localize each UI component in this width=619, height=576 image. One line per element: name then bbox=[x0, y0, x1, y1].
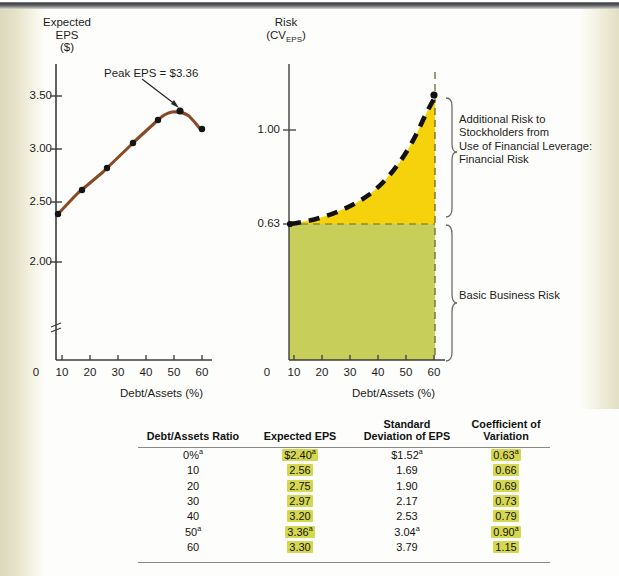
cell-debt-assets-value: 30 bbox=[187, 495, 199, 507]
figure-page: Expected EPS ($) Peak EPS = $3.36 3.50 3… bbox=[0, 0, 619, 576]
cell-standard-deviation: 3.04a bbox=[352, 525, 462, 540]
cell-standard-deviation: 1.90 bbox=[352, 479, 462, 494]
cell-standard-deviation-value: 3.79 bbox=[396, 541, 417, 553]
eps-point-60 bbox=[199, 126, 205, 132]
table-row: 102.561.690.66 bbox=[138, 463, 550, 478]
header-standard-deviation: Standard Deviation of EPS bbox=[352, 418, 462, 447]
header-sd-line1: Standard bbox=[352, 418, 462, 430]
header-sd-line2: Deviation of EPS bbox=[352, 430, 462, 442]
cell-debt-assets-value: 50a bbox=[185, 526, 201, 538]
cell-expected-eps: 3.36a bbox=[248, 525, 352, 540]
header-cv-line2: Variation bbox=[462, 430, 550, 442]
cell-expected-eps-value: $2.40a bbox=[282, 449, 318, 461]
cell-expected-eps: 3.30 bbox=[248, 540, 352, 557]
cell-debt-assets: 60 bbox=[138, 540, 248, 557]
footnote-marker: a bbox=[515, 524, 519, 533]
cell-expected-eps-value: 2.97 bbox=[287, 495, 312, 507]
cell-standard-deviation: 1.69 bbox=[352, 463, 462, 478]
cell-standard-deviation: 2.17 bbox=[352, 494, 462, 509]
cell-debt-assets-value: 10 bbox=[187, 464, 199, 476]
cell-coefficient-of-variation-value: 0.73 bbox=[493, 495, 518, 507]
cell-standard-deviation-value: 1.69 bbox=[396, 464, 417, 476]
page-top-edge-band bbox=[0, 0, 619, 9]
cell-debt-assets-value: 0%a bbox=[183, 449, 203, 461]
basic-business-risk-area bbox=[289, 224, 435, 360]
header-expected-eps: Expected EPS bbox=[248, 418, 352, 447]
header-coefficient-of-variation: Coefficient of Variation bbox=[462, 418, 550, 447]
cell-coefficient-of-variation: 0.66 bbox=[462, 463, 550, 478]
cell-expected-eps-value: 2.56 bbox=[287, 464, 312, 476]
eps-point-0 bbox=[55, 211, 61, 217]
cell-coefficient-of-variation: 1.15 bbox=[462, 540, 550, 557]
table-bottom-rule bbox=[138, 562, 550, 563]
cell-debt-assets: 10 bbox=[138, 463, 248, 478]
cell-debt-assets-value: 20 bbox=[187, 480, 199, 492]
cell-debt-assets: 30 bbox=[138, 494, 248, 509]
financial-risk-area bbox=[289, 100, 435, 224]
data-table: Debt/Assets Ratio Expected EPS Standard … bbox=[138, 418, 550, 558]
expected-eps-chart: Expected EPS ($) Peak EPS = $3.36 3.50 3… bbox=[0, 12, 250, 402]
table-head: Debt/Assets Ratio Expected EPS Standard … bbox=[138, 418, 550, 447]
cell-debt-assets-value: 40 bbox=[187, 510, 199, 522]
cell-standard-deviation-value: 2.53 bbox=[396, 510, 417, 522]
cell-expected-eps: $2.40a bbox=[248, 447, 352, 463]
header-debt-assets-line1: Debt/Assets Ratio bbox=[138, 430, 248, 442]
cell-coefficient-of-variation-value: 0.79 bbox=[493, 510, 518, 522]
cell-standard-deviation: 3.79 bbox=[352, 540, 462, 557]
cell-standard-deviation-value: 3.04a bbox=[394, 526, 419, 538]
cell-standard-deviation-value: $1.52a bbox=[391, 449, 423, 461]
cell-standard-deviation: $1.52a bbox=[352, 447, 462, 463]
footnote-marker: a bbox=[419, 447, 423, 456]
eps-curve-line bbox=[58, 112, 201, 214]
cell-expected-eps-value: 3.20 bbox=[287, 510, 312, 522]
cell-debt-assets: 50a bbox=[138, 525, 248, 540]
cell-coefficient-of-variation-value: 1.15 bbox=[493, 541, 518, 553]
cell-expected-eps: 3.20 bbox=[248, 509, 352, 524]
table-header-row: Debt/Assets Ratio Expected EPS Standard … bbox=[138, 418, 550, 447]
cell-coefficient-of-variation: 0.79 bbox=[462, 509, 550, 524]
cell-standard-deviation-value: 1.90 bbox=[396, 480, 417, 492]
cell-debt-assets: 20 bbox=[138, 479, 248, 494]
cell-expected-eps: 2.75 bbox=[248, 479, 352, 494]
peak-eps-arrow bbox=[142, 79, 179, 108]
financial-risk-brace bbox=[446, 98, 457, 217]
footnote-marker: a bbox=[515, 447, 519, 456]
table-row: 603.303.791.15 bbox=[138, 540, 550, 557]
table-row: 50a3.36a3.04a0.90a bbox=[138, 525, 550, 540]
header-expected-eps-line1: Expected EPS bbox=[248, 430, 352, 442]
cell-standard-deviation: 2.53 bbox=[352, 509, 462, 524]
cell-coefficient-of-variation: 0.73 bbox=[462, 494, 550, 509]
cell-coefficient-of-variation: 0.90a bbox=[462, 525, 550, 540]
table-row: 0%a$2.40a$1.52a0.63a bbox=[138, 447, 550, 463]
cell-standard-deviation-value: 2.17 bbox=[396, 495, 417, 507]
footnote-marker: a bbox=[416, 524, 420, 533]
header-cv-line1: Coefficient of bbox=[462, 418, 550, 430]
cell-debt-assets-value: 60 bbox=[187, 541, 199, 553]
cv-point-60 bbox=[430, 91, 437, 98]
cv-point-0 bbox=[287, 221, 293, 227]
cell-coefficient-of-variation-value: 0.63a bbox=[491, 449, 520, 461]
table-row: 202.751.900.69 bbox=[138, 479, 550, 494]
basic-business-risk-brace bbox=[446, 225, 457, 361]
eps-point-40 bbox=[155, 117, 161, 123]
footnote-marker: a bbox=[312, 447, 316, 456]
risk-return-table: Debt/Assets Ratio Expected EPS Standard … bbox=[138, 418, 550, 558]
footnote-marker: a bbox=[309, 524, 313, 533]
eps-point-20 bbox=[104, 165, 110, 171]
table-body: 0%a$2.40a$1.52a0.63a102.561.690.66202.75… bbox=[138, 447, 550, 557]
cell-expected-eps: 2.56 bbox=[248, 463, 352, 478]
left-chart-plot bbox=[0, 12, 250, 402]
cell-expected-eps-value: 2.75 bbox=[287, 480, 312, 492]
cell-expected-eps-value: 3.30 bbox=[287, 541, 312, 553]
footnote-marker: a bbox=[199, 447, 203, 456]
cell-expected-eps-value: 3.36a bbox=[285, 526, 314, 538]
footnote-marker: a bbox=[197, 524, 201, 533]
eps-point-30 bbox=[130, 140, 136, 146]
cell-coefficient-of-variation-value: 0.69 bbox=[493, 480, 518, 492]
eps-data-points bbox=[55, 107, 205, 217]
table-row: 403.202.530.79 bbox=[138, 509, 550, 524]
eps-point-50-peak bbox=[176, 107, 183, 114]
right-chart-plot bbox=[240, 12, 619, 402]
table-row: 302.972.170.73 bbox=[138, 494, 550, 509]
cell-debt-assets: 0%a bbox=[138, 447, 248, 463]
